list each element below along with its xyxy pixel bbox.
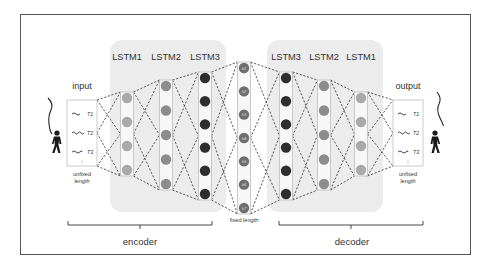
fixed-length-label: fixed length (230, 217, 259, 223)
lstm-unit (356, 117, 366, 127)
layer-label-lstm2: LSTM2 (151, 52, 181, 62)
layer-label-lstm1: LSTM1 (112, 52, 142, 62)
lstm-unit (200, 189, 210, 199)
lstm-unit (319, 179, 329, 189)
latent-unit-label: h1 (242, 66, 247, 71)
encoder-layer-lstm1 (121, 92, 134, 176)
decoder-layer-lstm2 (318, 80, 331, 190)
lstm-unit (200, 96, 210, 106)
decoder-label: decoder (335, 236, 369, 247)
motion-signal-icon (437, 92, 443, 126)
time-step-label: T1 (87, 111, 93, 117)
lstm-unit (122, 117, 132, 127)
layer-column (280, 72, 293, 200)
layer-column (355, 92, 368, 176)
lstm-unit (122, 165, 132, 175)
walking-person-icon (431, 130, 441, 153)
input-sequence-length-label: unfixed (73, 171, 91, 177)
lstm-unit (200, 73, 210, 83)
output-sequence: T1T2T3unfixedlength (393, 100, 423, 184)
latent-unit-label: h4 (242, 136, 247, 141)
latent-unit-label: h2 (242, 89, 247, 94)
encoder-layer-lstm2 (160, 80, 173, 190)
layer-column (121, 92, 134, 176)
latent-unit-label: h7 (242, 206, 247, 211)
lstm-unit (122, 141, 132, 151)
lstm-unit (319, 105, 329, 115)
latent-unit-label: h6 (242, 182, 247, 187)
input-sequence-length-label: length (74, 178, 89, 184)
decoder-layer-lstm1 (355, 92, 368, 176)
layer-label-lstm1: LSTM1 (346, 52, 376, 62)
motion-signal-icon (48, 98, 52, 134)
lstm-unit (281, 73, 291, 83)
lstm-unit (281, 166, 291, 176)
layer-label-lstm3: LSTM3 (271, 52, 301, 62)
lstm-unit (161, 81, 171, 91)
encoder-brace (68, 221, 212, 229)
lstm-unit (161, 179, 171, 189)
lstm-unit (281, 189, 291, 199)
lstm-unit (161, 130, 171, 140)
input-sequence-label: input (72, 81, 92, 91)
layer-column (199, 72, 212, 200)
decoder-brace (279, 221, 423, 229)
lstm-unit (161, 154, 171, 164)
walking-person-icon (52, 130, 62, 153)
time-step-label: T2 (87, 130, 93, 136)
seq2seq-diagram: LSTM1LSTM2LSTM3h1h2h3h4h5h6h7LSTM3LSTM2L… (0, 0, 489, 273)
decoder-layer-lstm3 (280, 72, 293, 200)
encoder-layer-lstm3 (199, 72, 212, 200)
time-step-label: T2 (413, 130, 419, 136)
output-sequence-label: output (395, 81, 421, 91)
latent-unit-label: h3 (242, 112, 247, 117)
time-step-label: T3 (413, 149, 419, 155)
input-sequence: T1T2T3unfixedlength (67, 100, 97, 184)
encoder-label: encoder (123, 236, 157, 247)
latent-vector: h1h2h3h4h5h6h7 (238, 62, 251, 214)
time-step-label: T1 (413, 111, 419, 117)
output-sequence-length-label: length (400, 178, 415, 184)
lstm-unit (281, 119, 291, 129)
output-sequence-length-label: unfixed (399, 171, 417, 177)
time-step-label: T3 (87, 149, 93, 155)
lstm-unit (319, 154, 329, 164)
lstm-unit (356, 165, 366, 175)
latent-unit-label: h5 (242, 159, 247, 164)
lstm-unit (161, 105, 171, 115)
lstm-unit (200, 166, 210, 176)
lstm-unit (200, 119, 210, 129)
lstm-unit (281, 96, 291, 106)
lstm-unit (281, 142, 291, 152)
lstm-unit (356, 141, 366, 151)
layer-label-lstm2: LSTM2 (309, 52, 339, 62)
lstm-unit (319, 130, 329, 140)
lstm-unit (200, 142, 210, 152)
lstm-unit (356, 93, 366, 103)
lstm-unit (319, 81, 329, 91)
layer-label-lstm3: LSTM3 (190, 52, 220, 62)
lstm-unit (122, 93, 132, 103)
